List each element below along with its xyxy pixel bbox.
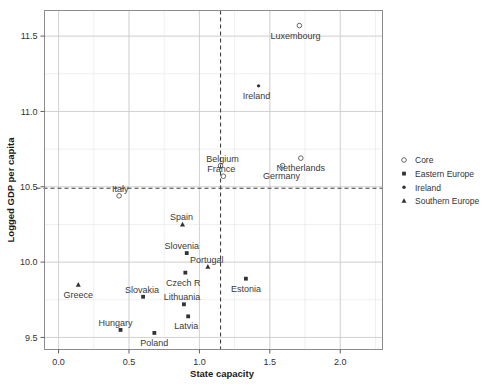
y-tick-label: 10.0: [20, 257, 38, 267]
x-tick-label: 1.0: [193, 357, 206, 367]
data-point-marker: [297, 23, 302, 28]
y-tick-label: 9.5: [25, 333, 38, 343]
data-point-marker: [183, 271, 187, 275]
data-point-label: Spain: [170, 212, 193, 222]
y-axis-title: Logged GDP per capita: [5, 137, 16, 243]
legend-marker-ire: [402, 186, 405, 189]
data-point-marker: [221, 174, 226, 179]
data-point-label: Luxembourg: [270, 31, 320, 41]
x-tick-label: 1.5: [264, 357, 277, 367]
data-point-label: Slovenia: [164, 241, 199, 251]
legend-marker-south: [402, 198, 407, 203]
data-point-marker: [299, 156, 304, 161]
data-point-label: Belgium: [206, 154, 239, 164]
data-point-label: Latvia: [174, 321, 198, 331]
data-point-label: Germany: [263, 171, 301, 181]
data-point-marker: [244, 277, 248, 281]
legend-label-east: Eastern Europe: [415, 169, 474, 179]
data-point-label: Ireland: [243, 91, 271, 101]
legend: CoreEastern EuropeIrelandSouthern Europe: [402, 155, 480, 206]
x-tick-label: 0.5: [123, 357, 136, 367]
x-tick-label: 0.0: [52, 357, 65, 367]
data-point-marker: [182, 302, 186, 306]
legend-marker-east: [402, 172, 406, 176]
legend-label-south: Southern Europe: [415, 196, 480, 206]
chart-canvas: 0.00.51.01.52.09.510.010.511.011.5 Luxem…: [0, 0, 493, 384]
data-point-label: France: [207, 164, 235, 174]
legend-label-ire: Ireland: [415, 183, 441, 193]
major-gridlines: [45, 11, 383, 350]
y-tick-label: 11.5: [21, 31, 38, 41]
data-point-label: Lithuania: [164, 292, 201, 302]
axis-tick-labels: 0.00.51.01.52.09.510.010.511.011.5: [20, 31, 347, 366]
data-point-marker: [186, 314, 190, 318]
data-point-label: Greece: [64, 290, 94, 300]
data-point-label: Slovakia: [125, 285, 159, 295]
data-point-marker: [119, 328, 123, 332]
legend-label-core: Core: [415, 155, 434, 165]
data-point-label: Czech R: [166, 278, 201, 288]
data-point-label: Portugal: [190, 255, 224, 265]
x-tick-label: 2.0: [334, 357, 347, 367]
x-axis-title: State capacity: [190, 368, 255, 379]
data-point-marker: [257, 84, 260, 87]
data-point-label: Hungary: [99, 318, 134, 328]
data-point-marker: [185, 251, 189, 255]
data-point-labels: LuxembourgIrelandNetherlandsGermanyBelgi…: [64, 31, 326, 348]
data-point-marker: [205, 264, 210, 269]
data-point-marker: [76, 282, 81, 287]
data-point-label: Estonia: [231, 284, 261, 294]
legend-marker-core: [402, 158, 407, 163]
scatter-plot-figure: 0.00.51.01.52.09.510.010.511.011.5 Luxem…: [0, 0, 493, 384]
minor-gridlines: [45, 11, 383, 350]
axis-ticks: [41, 36, 341, 353]
data-point-marker: [152, 331, 156, 335]
data-point-marker: [117, 194, 122, 199]
data-point-marker: [141, 295, 145, 299]
plot-frame: [45, 11, 383, 350]
y-tick-label: 11.0: [21, 107, 38, 117]
y-tick-label: 10.5: [20, 182, 38, 192]
data-point-label: Italy: [112, 184, 129, 194]
data-point-label: Poland: [140, 338, 168, 348]
